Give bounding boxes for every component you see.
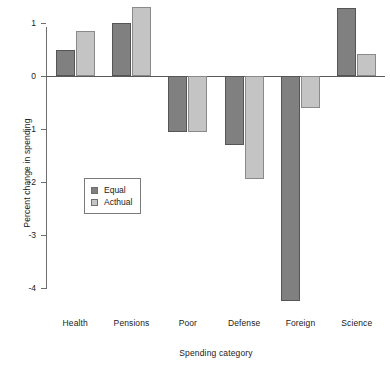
y-axis-line bbox=[46, 27, 47, 289]
bar bbox=[281, 76, 300, 301]
bar-chart: Percent change in spending 10-1-2-3-4 He… bbox=[0, 0, 390, 366]
legend-item: Acthual bbox=[91, 196, 132, 208]
y-axis-tick-label: 1 bbox=[14, 19, 36, 28]
y-axis-tick bbox=[41, 129, 46, 130]
bar bbox=[132, 7, 151, 76]
y-axis-tick bbox=[41, 235, 46, 236]
bar bbox=[188, 76, 207, 132]
x-axis-title: Spending category bbox=[46, 348, 386, 358]
bar bbox=[245, 76, 264, 179]
x-axis-category-label: Science bbox=[317, 318, 390, 328]
y-axis-tick-label: -4 bbox=[14, 284, 36, 293]
legend-swatch bbox=[91, 199, 98, 206]
zero-baseline bbox=[46, 76, 385, 77]
bar bbox=[225, 76, 244, 145]
bar bbox=[112, 23, 131, 76]
bar bbox=[76, 31, 95, 76]
legend: EqualActhual bbox=[84, 178, 141, 214]
legend-label: Equal bbox=[104, 186, 126, 195]
legend-swatch bbox=[91, 187, 98, 194]
bar bbox=[56, 50, 75, 77]
y-axis-tick-label: -2 bbox=[14, 178, 36, 187]
y-axis-tick bbox=[41, 76, 46, 77]
bar bbox=[301, 76, 320, 108]
y-axis-tick-label: -1 bbox=[14, 125, 36, 134]
y-axis-tick bbox=[41, 182, 46, 183]
bar bbox=[357, 54, 376, 76]
y-axis-tick bbox=[41, 288, 46, 289]
y-axis-tick-label: 0 bbox=[14, 72, 36, 81]
legend-item: Equal bbox=[91, 184, 132, 196]
bar bbox=[168, 76, 187, 132]
legend-label: Acthual bbox=[104, 198, 132, 207]
y-axis-tick-label: -3 bbox=[14, 231, 36, 240]
y-axis-tick bbox=[41, 23, 46, 24]
bar bbox=[337, 8, 356, 76]
